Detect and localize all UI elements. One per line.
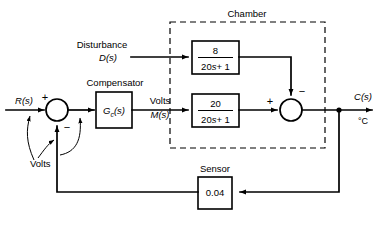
sum-output-minus-sign: − [299,85,305,97]
compensator-output-unit: Volts [150,95,171,106]
plant-numerator: 20 [210,98,221,109]
plant-denominator: 20s+ 1 [201,114,230,125]
compensator-transfer-function: Gc(s) [103,105,125,118]
disturbance-den-const: + 1 [216,61,229,72]
plant-den-coef: 20 [201,114,212,125]
sum-input-plus-sign: + [42,91,48,103]
chamber-label: Chamber [227,8,266,19]
wire-output-to-sensor [240,110,339,192]
block-diagram: Chamber R(s) + − Disturbance D(s) Compen… [0,0,385,227]
disturbance-denominator: 20s+ 1 [201,61,230,72]
wire-sensor-to-sum [57,126,198,192]
volts-leader-to-reference [27,116,34,160]
disturbance-input-label: D(s) [99,52,117,63]
disturbance-numerator: 8 [213,45,218,56]
sensor-gain-value: 0.04 [206,187,225,198]
disturbance-caption: Disturbance [77,39,128,50]
wire-disturbance-to-sum [239,57,291,95]
compensator-arg: (s) [114,105,125,116]
volts-annotation-label: Volts [30,158,51,169]
compensator-g: G [103,105,110,116]
output-unit-label: °C [358,116,369,126]
sum-output-plus-sign: + [267,95,273,107]
plant-den-const: + 1 [216,114,229,125]
sensor-caption: Sensor [200,163,230,174]
sum-input-minus-sign: − [64,121,70,133]
reference-input-label: R(s) [15,95,33,106]
summing-junction-input [46,99,68,121]
compensator-output-signal: M(s) [151,109,170,120]
volts-leader-to-feedback [38,140,54,158]
summing-junction-output [280,99,302,121]
diagram-canvas: Chamber R(s) + − Disturbance D(s) Compen… [0,0,385,227]
compensator-caption: Compensator [86,77,143,88]
disturbance-den-coef: 20 [201,61,212,72]
output-signal-label: C(s) [354,91,372,102]
